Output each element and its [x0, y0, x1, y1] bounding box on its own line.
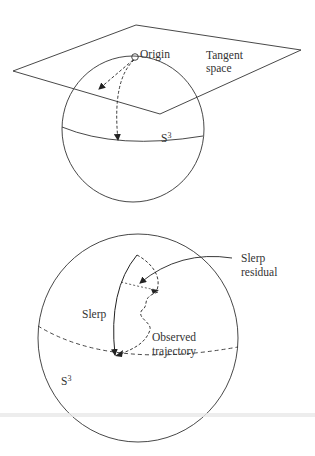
top-sphere-label: S3	[161, 130, 171, 144]
origin-label: Origin	[140, 48, 170, 60]
bottom-sphere-label-exp: 3	[67, 374, 71, 383]
observed-trajectory-label-line1: Observed	[152, 331, 196, 343]
top-sphere	[62, 56, 204, 202]
geodesic-arrow	[117, 60, 134, 140]
tangent-plane	[13, 25, 301, 114]
diagram-canvas	[0, 0, 315, 456]
tangent-space-label-line1: Tangent	[206, 49, 243, 61]
bottom-panel	[38, 234, 238, 442]
residual-connector	[121, 282, 157, 290]
bottom-sphere-label: S3	[61, 373, 71, 387]
scan-band	[0, 413, 315, 417]
tangent-space-label-line2: space	[206, 62, 232, 74]
bottom-sphere	[38, 234, 238, 442]
slerp-label: Slerp	[82, 308, 106, 320]
top-equator	[62, 127, 203, 141]
bottom-equator	[38, 326, 238, 355]
slerp-residual-label-line2: residual	[241, 266, 277, 278]
observed-trajectory-label-line2: trajectory	[152, 345, 196, 357]
top-sphere-label-exp: 3	[167, 131, 171, 140]
slerp-residual-label-line1: Slerp	[241, 252, 265, 264]
tangent-vector-arrow	[99, 60, 133, 89]
observed-arrowhead-end	[115, 350, 123, 357]
origin-marker	[132, 54, 139, 61]
slerp-arc	[114, 255, 137, 355]
